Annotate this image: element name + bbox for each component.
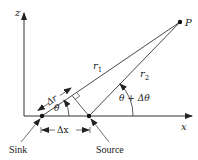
theta-arc (64, 100, 69, 116)
sink-leader (21, 119, 40, 142)
z-axis-label: z (14, 7, 21, 18)
sink-label: Sink (9, 144, 27, 155)
theta-label: θ (54, 103, 60, 113)
sink-point (40, 114, 44, 118)
delta-x-label: Δx (57, 125, 69, 135)
r1-line (42, 22, 180, 116)
source-leader (91, 119, 109, 142)
source-sink-diagram: z x Δr θ θ + Δθ r1 r2 P Δx Sink Source (0, 0, 198, 160)
perpendicular-line (72, 96, 89, 117)
source-point (87, 114, 91, 118)
source-label: Source (96, 144, 124, 155)
theta-plus-delta-label: θ + Δθ (119, 93, 150, 103)
point-p-label: P (184, 17, 192, 28)
x-axis-label: x (181, 121, 187, 132)
r2-label: r2 (140, 68, 149, 82)
delta-r-arrow-right (60, 88, 71, 96)
point-p (178, 20, 182, 24)
r1-label: r1 (93, 60, 102, 74)
